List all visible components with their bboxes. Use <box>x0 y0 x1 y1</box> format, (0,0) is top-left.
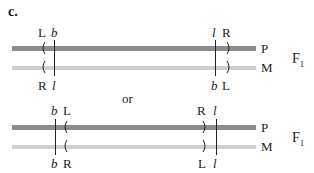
gene-label-l: l <box>213 157 217 170</box>
gene-label-b: b <box>211 79 218 92</box>
crossover-bracket-left-icon <box>62 119 70 155</box>
maternal-label: M <box>261 140 273 153</box>
paternal-label: P <box>261 42 268 55</box>
paternal-label: P <box>261 121 268 134</box>
generation-label: F1 <box>292 51 304 69</box>
crossover-bracket-left-icon <box>40 40 48 76</box>
gene-label-L: L <box>63 104 71 117</box>
locus-tick-b <box>55 119 56 155</box>
locus-tick-b <box>54 40 55 76</box>
gene-label-b: b <box>51 26 58 39</box>
gene-label-L: L <box>198 157 206 170</box>
gene-label-R: R <box>197 104 206 117</box>
or-separator: or <box>122 92 133 105</box>
gene-label-l: l <box>52 79 56 92</box>
gene-label-L: L <box>222 79 230 92</box>
gene-label-l: l <box>212 26 216 39</box>
gene-label-R: R <box>38 79 47 92</box>
generation-label: F1 <box>292 130 304 148</box>
maternal-label: M <box>261 61 273 74</box>
gene-label-R: R <box>63 157 72 170</box>
locus-tick-l <box>216 119 217 155</box>
gene-label-b: b <box>51 157 58 170</box>
panel-label: c. <box>8 4 18 20</box>
paternal-chromosome <box>12 125 256 130</box>
paternal-chromosome <box>12 46 256 51</box>
maternal-chromosome <box>12 66 256 70</box>
maternal-chromosome <box>12 145 256 149</box>
gene-label-l: l <box>213 104 217 117</box>
crossover-bracket-right-icon <box>201 119 209 155</box>
gene-label-R: R <box>222 26 231 39</box>
crossover-bracket-right-icon <box>225 40 233 76</box>
gene-label-L: L <box>38 26 46 39</box>
locus-tick-l <box>215 40 216 76</box>
gene-label-b: b <box>51 104 58 117</box>
